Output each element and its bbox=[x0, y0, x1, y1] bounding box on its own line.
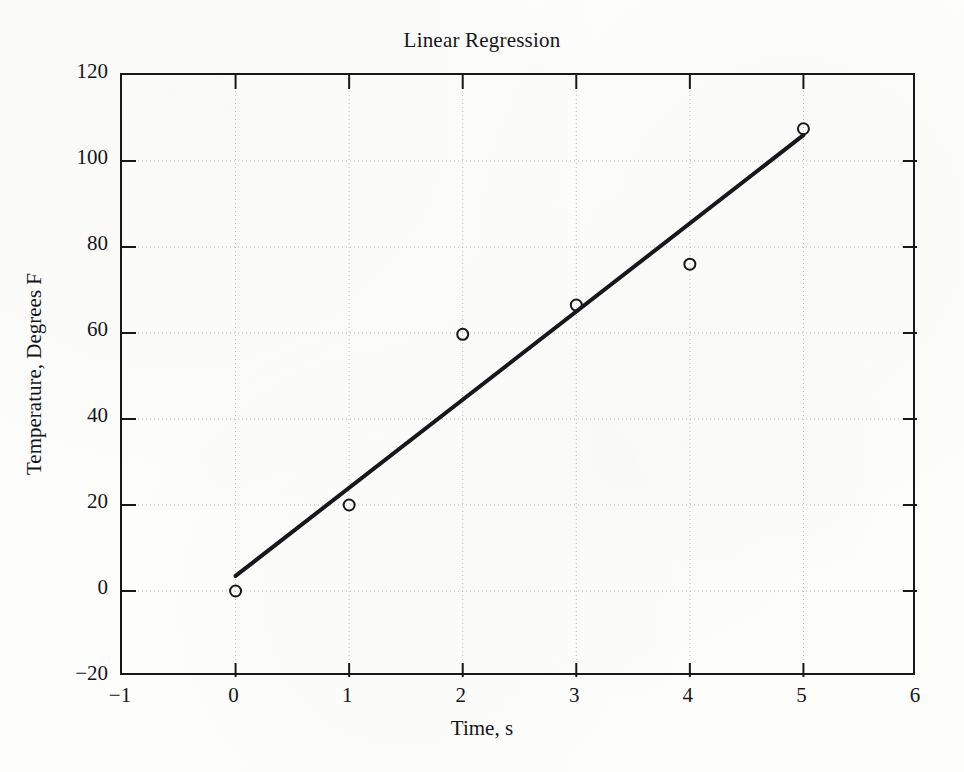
data-point bbox=[684, 259, 695, 270]
axis-ticks bbox=[122, 75, 917, 677]
x-tick-label: 0 bbox=[228, 683, 239, 708]
x-tick-label: 2 bbox=[455, 683, 466, 708]
plot-frame bbox=[120, 73, 915, 675]
regression-line bbox=[236, 135, 804, 576]
data-point bbox=[457, 329, 468, 340]
x-tick-label: −1 bbox=[109, 683, 131, 708]
x-tick-label: 3 bbox=[569, 683, 580, 708]
x-axis-label: Time, s bbox=[0, 716, 964, 741]
x-tick-label: 1 bbox=[342, 683, 353, 708]
figure-canvas: Linear Regression Temperature, Degrees F… bbox=[0, 0, 964, 772]
x-tick-label: 5 bbox=[796, 683, 807, 708]
fit-line-path bbox=[236, 135, 804, 576]
gridlines bbox=[122, 75, 917, 677]
data-point bbox=[571, 300, 582, 311]
plot-area bbox=[122, 75, 917, 677]
data-point bbox=[344, 500, 355, 511]
x-tick-label: 4 bbox=[683, 683, 694, 708]
x-tick-label: 6 bbox=[910, 683, 921, 708]
data-point bbox=[798, 123, 809, 134]
data-point-markers bbox=[230, 123, 809, 596]
